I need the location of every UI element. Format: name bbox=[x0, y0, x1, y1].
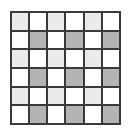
grid-cell-r5-c3-dark bbox=[65, 105, 83, 124]
grid-cell-r4-c5-white bbox=[102, 87, 120, 106]
grid-cell-r3-c2-white bbox=[47, 68, 65, 87]
grid-cell-r4-c1-white bbox=[29, 87, 47, 106]
grid-cell-r2-c0-light bbox=[11, 49, 29, 68]
grid-cell-r4-c4-light bbox=[84, 87, 102, 106]
grid-cell-r1-c1-dark bbox=[29, 31, 47, 50]
grid-cell-r0-c0-light bbox=[11, 12, 29, 31]
grid-cell-r1-c5-dark bbox=[102, 31, 120, 50]
grid-cell-r3-c0-white bbox=[11, 68, 29, 87]
grid-cell-r0-c2-light bbox=[47, 12, 65, 31]
grid-cell-r1-c4-white bbox=[84, 31, 102, 50]
grid-cell-r0-c4-light bbox=[84, 12, 102, 31]
grid-cell-r1-c0-white bbox=[11, 31, 29, 50]
grid-cell-r4-c2-light bbox=[47, 87, 65, 106]
grid-cell-r1-c2-white bbox=[47, 31, 65, 50]
grid-cell-r5-c2-white bbox=[47, 105, 65, 124]
grid-cell-r5-c4-white bbox=[84, 105, 102, 124]
shaded-grid bbox=[10, 11, 121, 125]
grid-cell-r3-c3-dark bbox=[65, 68, 83, 87]
grid-cell-r2-c3-white bbox=[65, 49, 83, 68]
grid-cell-r2-c4-light bbox=[84, 49, 102, 68]
grid-cell-r2-c2-light bbox=[47, 49, 65, 68]
grid-cell-r2-c5-white bbox=[102, 49, 120, 68]
grid-cell-r5-c1-dark bbox=[29, 105, 47, 124]
grid-cell-r0-c5-white bbox=[102, 12, 120, 31]
grid-cell-r5-c5-dark bbox=[102, 105, 120, 124]
grid-cell-r0-c3-white bbox=[65, 12, 83, 31]
grid-cell-r3-c4-white bbox=[84, 68, 102, 87]
grid-cell-r5-c0-white bbox=[11, 105, 29, 124]
grid-cell-r4-c0-light bbox=[11, 87, 29, 106]
grid-cell-r0-c1-white bbox=[29, 12, 47, 31]
grid-cell-r2-c1-white bbox=[29, 49, 47, 68]
grid-cell-r4-c3-white bbox=[65, 87, 83, 106]
grid-cell-r1-c3-dark bbox=[65, 31, 83, 50]
grid-cell-r3-c1-dark bbox=[29, 68, 47, 87]
grid-cell-r3-c5-dark bbox=[102, 68, 120, 87]
